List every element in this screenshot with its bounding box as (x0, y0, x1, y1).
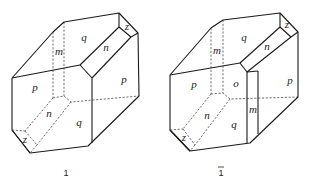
face-label-m-side: m (249, 103, 257, 115)
face-label-m-top: m (213, 44, 221, 56)
face-label-z-top: z (284, 18, 290, 30)
face-label-n-bottom: n (204, 109, 210, 121)
face-label-z-top: z (124, 20, 130, 32)
face-label-q-top: q (81, 31, 87, 43)
face-label-n-bottom: n (46, 107, 52, 119)
caption-right: 1 (218, 168, 223, 178)
face-label-p-right: p (286, 74, 293, 86)
crystal-left-edges (12, 13, 139, 153)
face-label-z-bottom: z (22, 133, 28, 145)
face-label-m-top: m (55, 45, 63, 57)
face-label-n-top: n (103, 41, 109, 53)
caption-left: 1 (63, 168, 68, 178)
face-label-q-bottom: q (76, 116, 82, 128)
face-label-z-bottom: z (181, 131, 187, 143)
crystal-left: q m n z p p n q z 1 (12, 13, 139, 178)
face-label-p-right: p (120, 73, 127, 85)
face-label-q-bottom: q (231, 118, 237, 130)
face-label-o-center: o (233, 77, 239, 89)
crystal-left-hidden-edges (12, 22, 139, 153)
face-label-n-top: n (264, 40, 270, 52)
crystal-right: q m n z p o p m n q z 1 (170, 13, 298, 178)
face-label-p-left: p (190, 78, 197, 90)
face-label-q-top: q (241, 31, 247, 43)
face-label-p-left: p (31, 81, 38, 93)
crystal-diagram: q m n z p p n q z 1 (0, 0, 311, 189)
